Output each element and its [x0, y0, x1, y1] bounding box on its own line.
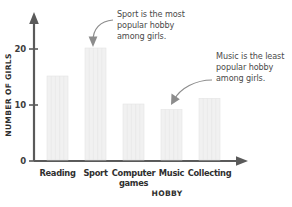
annotation-sport-line2: popular hobby	[117, 20, 175, 30]
annotation-sport-line1: Sport is the most	[117, 9, 185, 19]
annotation-music-leader	[174, 80, 212, 100]
y-tick-label-20: 20	[15, 44, 27, 54]
y-axis-title: NUMBER OF GIRLS	[4, 53, 13, 137]
x-label-sport: Sport	[83, 168, 108, 178]
annotation-music-line2: popular hobby	[216, 62, 274, 72]
bar-music	[161, 110, 182, 160]
x-label-computer-games-line1: Computer	[112, 168, 157, 178]
chart-canvas: 20 10 0	[0, 0, 292, 207]
x-label-computer-games-line2: games	[119, 178, 149, 188]
bar-reading	[47, 76, 68, 160]
bar-sport	[85, 48, 106, 160]
annotation-sport-line3: among girls.	[117, 31, 166, 41]
x-axis-title: HOBBY	[152, 189, 183, 198]
y-tick-label-0: 0	[20, 156, 26, 166]
annotation-music-line3: among girls.	[216, 73, 265, 83]
y-tick-label-10: 10	[15, 100, 27, 110]
y-axis-arrowhead	[29, 12, 39, 24]
bar-collecting	[199, 98, 220, 160]
annotation-music-arrowhead	[171, 94, 180, 105]
bar-chart: 20 10 0	[0, 0, 292, 207]
x-label-collecting: Collecting	[188, 168, 232, 178]
annotation-music-line1: Music is the least	[216, 51, 284, 61]
x-label-music: Music	[159, 168, 185, 178]
annotation-sport-arrowhead	[89, 37, 98, 48]
x-label-reading: Reading	[39, 168, 76, 178]
bar-computer-games	[123, 104, 144, 160]
x-axis-arrowhead	[236, 156, 248, 166]
